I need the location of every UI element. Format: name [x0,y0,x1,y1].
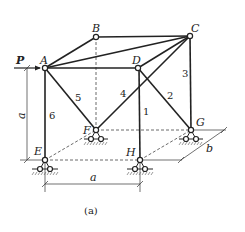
joint-g [188,127,193,132]
node-label-c: C [191,22,200,35]
node-label-e: E [33,145,42,158]
joint-e [42,157,47,162]
joint-b [93,34,98,39]
joint-f [93,127,98,132]
dimension-depth: b [140,127,227,163]
node-label-d: D [131,54,141,67]
member-label-6: 6 [49,110,55,121]
joint-h [137,157,142,162]
member-label-2: 2 [167,90,173,101]
node-label-b: B [91,22,100,35]
dimension-width: a [42,160,143,192]
space-truss-diagram: P a a b [0,0,245,232]
node-label-a: A [39,54,48,67]
depth-dimension-label: b [206,142,213,155]
member-label-1: 1 [143,106,149,117]
load-label: P [15,54,25,67]
height-dimension-label: a [15,112,28,119]
member-label-5: 5 [75,92,81,103]
node-label-g: G [196,116,205,129]
member-label-4: 4 [120,88,126,99]
member-label-3: 3 [182,68,188,79]
node-label-f: F [82,124,91,137]
width-dimension-label: a [90,171,97,184]
node-label-h: H [125,146,136,159]
figure-caption: (a) [84,205,98,216]
member-labels: 1 2 3 4 5 6 [49,68,188,121]
load-arrow-p: P [14,54,41,71]
